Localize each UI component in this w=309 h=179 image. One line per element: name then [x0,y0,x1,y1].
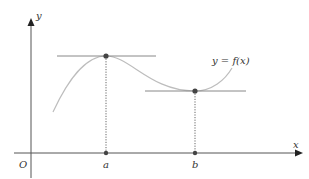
x-axis-label: x [293,139,299,150]
y-axis-arrow-icon [28,18,35,26]
point-a-label: a [103,159,109,170]
origin-label: O [19,159,27,170]
max-point-dot [103,53,108,58]
min-point-dot [192,88,197,93]
function-curve [53,56,232,112]
x-axis-arrow-icon [295,150,303,157]
point-b-label: b [192,159,198,170]
y-axis-label: y [35,10,42,21]
curve-label: y = f(x) [211,55,250,66]
a-tick-dot [104,151,108,155]
diagram-canvas: y x O a b y = f(x) [0,0,309,179]
b-tick-dot [193,151,197,155]
